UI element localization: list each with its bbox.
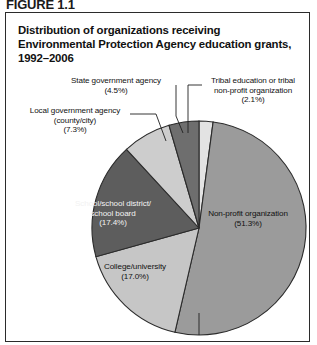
pie-chart-svg [6,13,310,342]
slice-label-state-government: State government agency (4.5%) [42,76,190,95]
slice-label-college-university-value: (17.0%) [121,272,149,281]
slice-label-school-district: School/school district/ school board (17… [54,199,172,228]
slice-label-non-profit-line1: Non-profit organization [208,209,288,218]
slice-label-local-government-value: (7.3%) [63,125,86,134]
figure-number: FIGURE 1.1 [6,0,75,12]
slice-label-school-district-line2: school board [90,209,135,218]
slice-label-tribal-education-value: (2.1%) [241,95,264,104]
slice-label-state-government-value: (4.5%) [104,86,127,95]
figure-container: Distribution of organizations receiving … [5,12,310,342]
slice-label-college-university-line1: College/university [104,262,166,271]
slice-label-local-government-line1: Local government agency [30,106,120,115]
slice-label-tribal-education-line2: non-profit organization [214,86,292,95]
slice-label-tribal-education: Tribal education or tribal non-profit or… [194,76,310,105]
pie-chart [6,13,310,342]
slice-label-local-government: Local government agency (county/city) (7… [7,106,143,135]
slice-label-local-government-line2: (county/city) [54,116,96,125]
slice-label-college-university: College/university (17.0%) [79,262,191,281]
slice-label-non-profit: Non-profit organization (51.3%) [189,209,307,228]
slice-label-school-district-value: (17.4%) [99,218,127,227]
slice-label-non-profit-value: (51.3%) [234,219,262,228]
slice-label-school-district-line1: School/school district/ [75,199,151,208]
slice-label-tribal-education-line1: Tribal education or tribal [211,76,295,85]
slice-label-state-government-line1: State government agency [71,76,161,85]
